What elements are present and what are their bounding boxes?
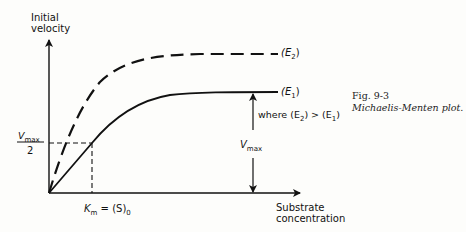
e1-label: (E1) xyxy=(281,86,300,102)
vmax-half-label: Vmax xyxy=(18,130,40,146)
x-axis-label: Substrate concentration xyxy=(276,202,345,224)
where-label: where (E2) > (E1) xyxy=(258,109,340,125)
e2-label: (E2) xyxy=(281,47,300,63)
figure-caption: Fig. 9-3 Michaelis-Menten plot. xyxy=(352,90,463,114)
figure-title: Michaelis-Menten plot. xyxy=(352,102,463,114)
y-axis-label: Initial velocity xyxy=(31,12,70,34)
michaelis-menten-diagram xyxy=(0,0,466,232)
km-label: Km = (S)0 xyxy=(84,203,131,219)
vmax-half-denominator: 2 xyxy=(27,145,33,156)
figure-number: Fig. 9-3 xyxy=(352,90,463,102)
e2-curve xyxy=(49,54,278,193)
vmax-label: Vmax xyxy=(240,139,262,155)
